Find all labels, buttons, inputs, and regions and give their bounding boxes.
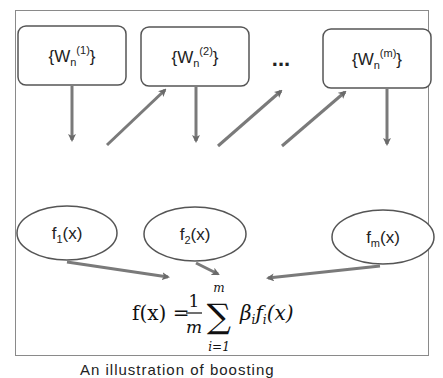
arrow-ellipsis-wm bbox=[282, 92, 345, 146]
svg-text:f1(x): f1(x) bbox=[52, 224, 83, 245]
svg-text:f(x) =: f(x) = bbox=[132, 301, 189, 325]
arrow-f1-formula bbox=[67, 262, 168, 277]
arrow-f2-ellipsis bbox=[218, 91, 281, 146]
learner-ellipse-m: fm(x) bbox=[332, 210, 434, 264]
svg-text:m: m bbox=[186, 317, 202, 337]
arrow-fm-formula bbox=[268, 266, 380, 278]
ensemble-formula: f(x) = 1 m ∑ m i=1 βifi(x) bbox=[132, 281, 294, 354]
learner-ellipse-1: f1(x) bbox=[17, 206, 117, 260]
arrow-f2-formula bbox=[196, 263, 218, 274]
svg-text:i=1: i=1 bbox=[208, 340, 230, 354]
weight-box-m: {Wn(m)} bbox=[323, 29, 431, 88]
ellipsis: ... bbox=[272, 46, 290, 71]
svg-text:βifi(x): βifi(x) bbox=[239, 301, 294, 327]
arrow-f1-w2 bbox=[107, 90, 165, 145]
learner-ellipse-2: f2(x) bbox=[144, 207, 246, 261]
svg-text:f2(x): f2(x) bbox=[180, 225, 211, 246]
weight-box-1: {Wn(1)} bbox=[18, 26, 126, 85]
weight-box-2: {Wn(2)} bbox=[141, 27, 249, 86]
figure-caption: An illustration of boosting bbox=[80, 361, 275, 378]
svg-text:m: m bbox=[213, 281, 224, 295]
svg-text:∑: ∑ bbox=[207, 296, 231, 336]
svg-text:1: 1 bbox=[189, 291, 200, 311]
